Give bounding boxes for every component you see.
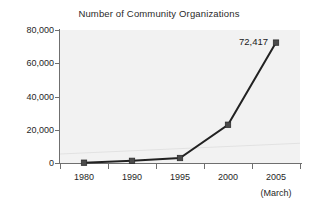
data-point-2000 [225,122,230,127]
series-markers [81,40,278,165]
data-point-label-2005: 72,417 [206,36,268,47]
data-point-1980 [81,160,86,165]
data-point-2005 [273,40,278,45]
data-series [0,0,318,217]
series-line [84,43,276,163]
data-point-1995 [177,155,182,160]
chart-container: Number of Community Organizations 020,00… [0,0,318,217]
data-point-1990 [129,158,134,163]
